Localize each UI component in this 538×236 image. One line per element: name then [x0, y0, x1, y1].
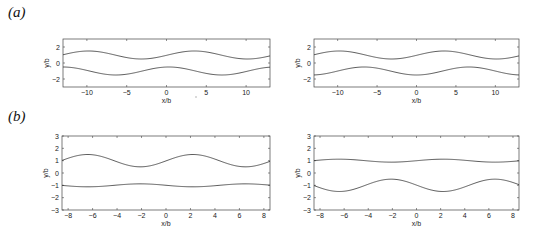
x-tick-label: −6 [340, 212, 348, 219]
y-tick-label: 2 [56, 44, 60, 51]
y-tick-label: 1 [55, 157, 59, 164]
y-tick-label: 2 [55, 145, 59, 152]
x-tick-label: 6 [237, 212, 241, 219]
y-tick-label: 0 [55, 170, 59, 177]
y-tick-label: 3 [55, 133, 59, 140]
x-axis-label: x/b [412, 97, 421, 104]
subplot-a-right: −10−50510−202x/by/b [294, 39, 519, 104]
x-tick-label: −10 [81, 89, 93, 96]
lower-wall-curve [314, 179, 519, 191]
y-tick-label: −2 [303, 76, 311, 83]
axes-frame [314, 136, 519, 210]
x-tick-label: 0 [415, 212, 419, 219]
x-axis-label: x/b [161, 220, 170, 227]
axes-frame [314, 39, 519, 87]
x-tick-label: −10 [332, 89, 344, 96]
y-tick-label: 0 [56, 60, 60, 67]
y-tick-label: −1 [303, 182, 311, 189]
y-tick-label: −3 [303, 207, 311, 214]
x-tick-label: −2 [388, 212, 396, 219]
x-tick-label: −4 [113, 212, 121, 219]
x-axis-label: x/b [162, 97, 171, 104]
upper-wall-curve [63, 51, 270, 59]
stray-dot [195, 96, 196, 97]
x-tick-label: 0 [164, 212, 168, 219]
x-tick-label: 5 [454, 89, 458, 96]
y-tick-label: 2 [307, 145, 311, 152]
x-tick-label: −8 [316, 212, 324, 219]
x-tick-label: 8 [511, 212, 515, 219]
x-tick-label: 8 [262, 212, 266, 219]
x-axis-label: x/b [412, 220, 421, 227]
y-tick-label: 2 [307, 44, 311, 51]
lower-wall-curve [62, 184, 270, 187]
axes-frame [62, 136, 270, 210]
y-axis-label: y/b [294, 168, 302, 177]
upper-wall-curve [62, 155, 270, 167]
x-tick-label: 10 [491, 89, 499, 96]
y-tick-label: 1 [307, 157, 311, 164]
x-tick-label: 0 [165, 89, 169, 96]
lower-wall-curve [314, 67, 519, 75]
x-tick-label: −8 [64, 212, 72, 219]
y-tick-label: −2 [52, 76, 60, 83]
axes-frame [63, 39, 270, 87]
upper-wall-curve [314, 159, 519, 162]
x-tick-label: 5 [204, 89, 208, 96]
y-tick-label: 3 [307, 133, 311, 140]
x-tick-label: 6 [487, 212, 491, 219]
y-axis-label: y/b [42, 168, 50, 177]
subplot-b-left: −8−6−4−202468−3−2−10123x/by/b [42, 133, 270, 228]
x-tick-label: 4 [213, 212, 217, 219]
subplot-a-left: −10−50510−202x/by/b [43, 39, 270, 104]
x-tick-label: 0 [415, 89, 419, 96]
y-axis-label: y/b [294, 58, 302, 67]
x-tick-label: 2 [439, 212, 443, 219]
y-tick-label: −3 [51, 207, 59, 214]
upper-wall-curve [314, 51, 519, 59]
x-tick-label: 4 [463, 212, 467, 219]
y-tick-label: −2 [51, 194, 59, 201]
x-tick-label: −6 [89, 212, 97, 219]
x-tick-label: −2 [138, 212, 146, 219]
y-tick-label: 0 [307, 60, 311, 67]
y-axis-label: y/b [43, 58, 51, 67]
y-tick-label: −1 [51, 182, 59, 189]
y-tick-label: −2 [303, 194, 311, 201]
x-tick-label: −5 [373, 89, 381, 96]
subplot-b-right: −8−6−4−202468−3−2−10123x/by/b [294, 133, 519, 228]
x-tick-label: 10 [242, 89, 250, 96]
figure-canvas: −10−50510−202x/by/b −10−50510−202x/by/b … [0, 0, 538, 236]
x-tick-label: 2 [189, 212, 193, 219]
x-tick-label: −5 [123, 89, 131, 96]
y-tick-label: 0 [307, 170, 311, 177]
lower-wall-curve [63, 67, 270, 75]
x-tick-label: −4 [364, 212, 372, 219]
